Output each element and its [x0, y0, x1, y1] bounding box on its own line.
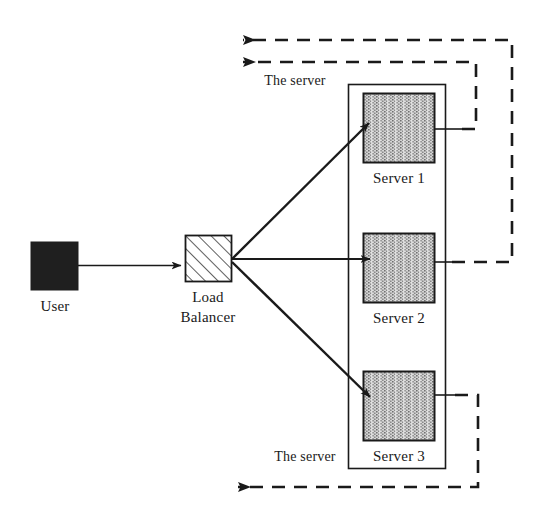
load-balancer-label-line1: Load: [192, 289, 224, 305]
load-balancer-label-line2: Balancer: [181, 309, 236, 325]
server-3-node[interactable]: [364, 372, 435, 441]
edge-server-3-return: [238, 395, 478, 487]
server-2-node[interactable]: [364, 234, 435, 303]
top-return-label: The server: [264, 73, 326, 88]
server-1-label: Server 1: [373, 170, 425, 186]
server-2-label: Server 2: [373, 310, 425, 326]
user-label: User: [40, 298, 69, 314]
bottom-return-label: The server: [274, 449, 336, 464]
diagram-canvas: User Load Balancer Server 1 Server 2 Ser…: [0, 0, 545, 511]
server-3-label: Server 3: [373, 448, 425, 464]
load-balancer-node[interactable]: [186, 236, 232, 282]
server-1-node[interactable]: [364, 94, 435, 163]
load-balancer-diagram: User Load Balancer Server 1 Server 2 Ser…: [0, 0, 545, 511]
user-node[interactable]: [31, 242, 78, 290]
